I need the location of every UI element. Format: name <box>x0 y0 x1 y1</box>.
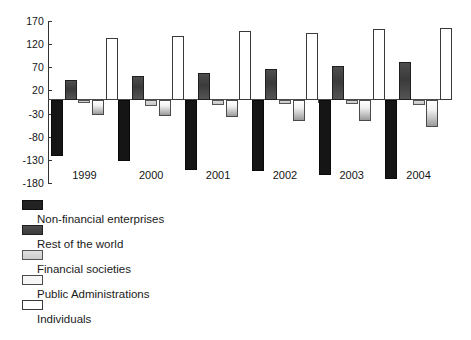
legend-swatch-icon <box>22 300 43 310</box>
y-tick-mark <box>48 67 52 68</box>
bar-1999-series-2[interactable] <box>78 100 90 104</box>
legend-item-3[interactable]: Public Administrations <box>0 275 300 303</box>
bar-2001-series-1[interactable] <box>198 73 210 100</box>
legend-label: Financial societies <box>37 263 131 275</box>
legend-label: Non-financial enterprises <box>37 213 164 225</box>
bar-1999-series-0[interactable] <box>51 100 63 156</box>
bar-2004-series-2[interactable] <box>413 100 425 105</box>
legend-swatch-icon <box>22 200 43 210</box>
legend-swatch-icon <box>22 275 43 285</box>
legend-label: Rest of the world <box>37 238 123 250</box>
bar-2001-series-2[interactable] <box>212 100 224 106</box>
bar-2002-series-2[interactable] <box>279 100 291 105</box>
chart-legend: Non-financial enterprisesRest of the wor… <box>0 200 471 340</box>
plot-area: 1701207020-30-80-130-180 199920002001200… <box>0 0 471 196</box>
bar-2003-series-4[interactable] <box>373 29 385 99</box>
bar-1999-series-3[interactable] <box>92 100 104 115</box>
legend-swatch-icon <box>22 225 43 235</box>
bar-2002-series-1[interactable] <box>265 69 277 100</box>
bar-2000-series-4[interactable] <box>172 36 184 99</box>
y-tick-mark <box>48 44 52 45</box>
bar-1999-series-4[interactable] <box>106 38 118 100</box>
legend-label: Individuals <box>37 313 91 325</box>
bar-2003-series-0[interactable] <box>319 100 331 175</box>
x-tick-label: 2002 <box>252 170 319 181</box>
bar-2000-series-1[interactable] <box>132 76 144 100</box>
bar-2003-series-2[interactable] <box>346 100 358 104</box>
bar-2001-series-4[interactable] <box>239 31 251 100</box>
y-tick-mark <box>48 90 52 91</box>
bar-2004-series-3[interactable] <box>426 100 438 127</box>
bar-2001-series-3[interactable] <box>226 100 238 117</box>
bar-2003-series-1[interactable] <box>332 66 344 99</box>
bar-2000-series-3[interactable] <box>159 100 171 117</box>
bar-2002-series-0[interactable] <box>252 100 264 172</box>
bar-2004-series-1[interactable] <box>399 62 411 100</box>
bar-2000-series-0[interactable] <box>118 100 130 162</box>
bar-2002-series-4[interactable] <box>306 33 318 100</box>
x-tick-label: 2000 <box>118 170 185 181</box>
bar-2002-series-3[interactable] <box>293 100 305 121</box>
x-tick-label: 1999 <box>51 170 118 181</box>
chart-figure: 1701207020-30-80-130-180 199920002001200… <box>0 0 471 340</box>
y-tick-mark <box>48 21 52 22</box>
bar-2000-series-2[interactable] <box>145 100 157 106</box>
x-tick-label: 2001 <box>185 170 252 181</box>
y-tick-mark <box>48 160 52 161</box>
bar-2003-series-3[interactable] <box>359 100 371 121</box>
legend-label: Public Administrations <box>37 288 150 300</box>
legend-item-1[interactable]: Rest of the world <box>0 225 300 253</box>
legend-item-4[interactable]: Individuals <box>0 300 300 328</box>
legend-item-0[interactable]: Non-financial enterprises <box>0 200 300 228</box>
bar-2004-series-4[interactable] <box>440 28 452 100</box>
bar-2001-series-0[interactable] <box>185 100 197 170</box>
y-tick-mark <box>48 183 52 184</box>
bar-2004-series-0[interactable] <box>385 100 397 180</box>
legend-item-2[interactable]: Financial societies <box>0 250 300 278</box>
legend-swatch-icon <box>22 250 43 260</box>
bar-1999-series-1[interactable] <box>65 80 77 99</box>
